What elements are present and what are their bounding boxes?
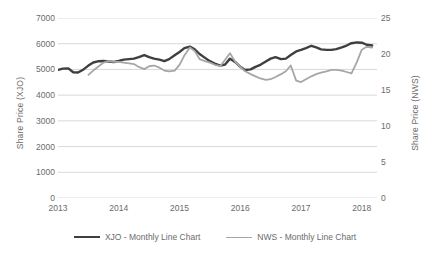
x-axis-tick-label: 2018: [352, 203, 371, 213]
y-axis-right-tick-label: 15: [381, 85, 390, 95]
x-axis-tick-label: 2014: [109, 203, 128, 213]
y-axis-left-tick-label: 1000: [36, 167, 55, 177]
y-axis-left-tick-label: 4000: [36, 90, 55, 100]
y-axis-left-tick-label: 0: [50, 193, 55, 203]
y-axis-right-tick-label: 0: [381, 193, 386, 203]
x-axis-tick-label: 2015: [170, 203, 189, 213]
y-axis-left-tick-label: 6000: [36, 39, 55, 49]
y-axis-left-tick-label: 7000: [36, 13, 55, 23]
x-axis-tick-label: 2016: [231, 203, 250, 213]
y-axis-left-ticks: 01000200030004000500060007000: [10, 0, 55, 259]
y-axis-right-ticks: 0510152025: [381, 0, 421, 259]
y-axis-left-tick-label: 3000: [36, 116, 55, 126]
legend-line-swatch-icon: [226, 237, 252, 238]
legend-item-xjo[interactable]: XJO - Monthly Line Chart: [74, 232, 200, 242]
legend-label: XJO - Monthly Line Chart: [105, 232, 200, 242]
y-axis-right-tick-label: 20: [381, 49, 390, 59]
plot-area: [58, 18, 377, 198]
legend-line-swatch-icon: [74, 236, 100, 238]
legend-item-nws[interactable]: NWS - Monthly Line Chart: [226, 232, 356, 242]
legend-label: NWS - Monthly Line Chart: [257, 232, 356, 242]
x-axis-ticks: 201320142015201620172018: [0, 203, 430, 219]
y-axis-right-tick-label: 5: [381, 157, 386, 167]
y-axis-left-tick-label: 5000: [36, 64, 55, 74]
chart-legend: XJO - Monthly Line ChartNWS - Monthly Li…: [0, 232, 430, 242]
plot-svg: [58, 18, 377, 198]
y-axis-right-tick-label: 25: [381, 13, 390, 23]
y-axis-right-tick-label: 10: [381, 121, 390, 131]
y-axis-left-tick-label: 2000: [36, 142, 55, 152]
share-price-line-chart: Share Price (XJO) Share Price (NWS) 0100…: [0, 0, 430, 259]
x-axis-tick-label: 2013: [49, 203, 68, 213]
x-axis-tick-label: 2017: [292, 203, 311, 213]
series-line-xjo: [58, 42, 372, 72]
series-line-nws: [88, 47, 372, 82]
